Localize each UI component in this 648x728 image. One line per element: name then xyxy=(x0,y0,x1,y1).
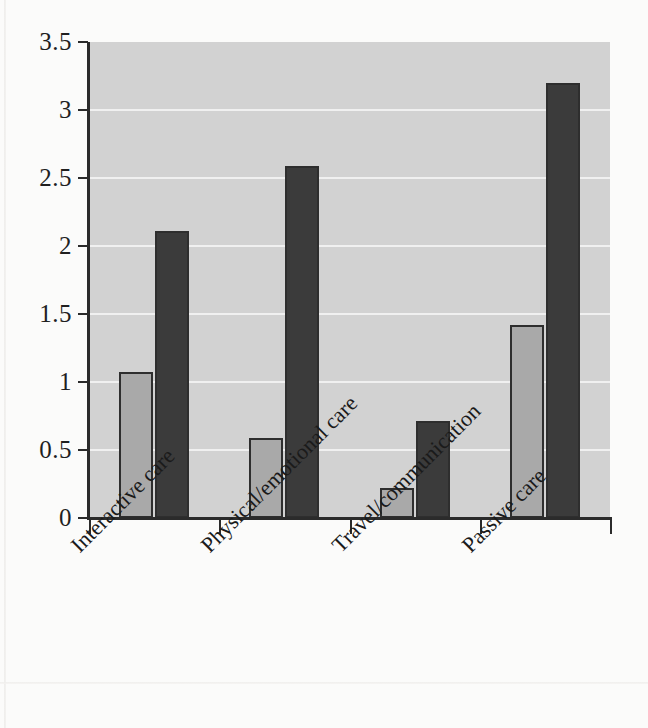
y-axis-tick xyxy=(78,41,88,43)
gridline xyxy=(89,109,610,111)
y-axis-tick xyxy=(78,449,88,451)
bar-chart: 00.511.522.533.5 Interactive carePhysica… xyxy=(0,0,648,728)
y-axis-tick xyxy=(78,245,88,247)
y-axis-tick-label: 3.5 xyxy=(39,29,72,54)
bar-dark xyxy=(546,83,580,518)
plot-area xyxy=(89,42,610,518)
y-axis-tick-label: 1.5 xyxy=(39,301,72,326)
x-axis-tick xyxy=(610,519,612,534)
y-axis-tick-label: 0 xyxy=(59,505,72,530)
y-axis-tick xyxy=(78,313,88,315)
y-axis-tick-label: 3 xyxy=(59,97,72,122)
y-axis-tick xyxy=(78,109,88,111)
y-axis-tick xyxy=(78,381,88,383)
y-axis-tick-label: 2 xyxy=(59,233,72,258)
figure-canvas: 00.511.522.533.5 Interactive carePhysica… xyxy=(0,0,648,728)
y-axis-tick xyxy=(78,177,88,179)
gridline xyxy=(89,177,610,179)
y-axis-tick-label: 1 xyxy=(59,369,72,394)
y-axis-tick-label: 2.5 xyxy=(39,165,72,190)
y-axis-tick-label: 0.5 xyxy=(39,437,72,462)
